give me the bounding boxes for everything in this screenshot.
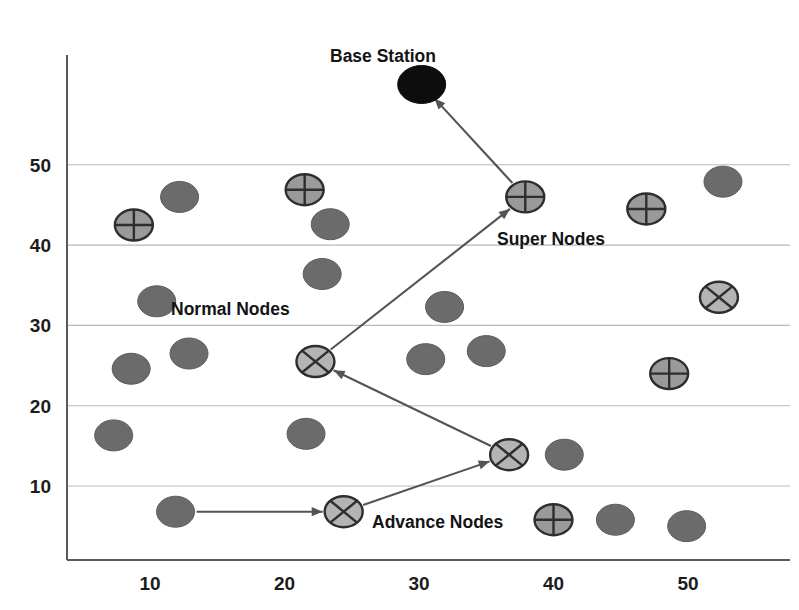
advance-nodes-marker <box>296 346 334 377</box>
normal-nodes-marker <box>112 353 150 384</box>
normal-nodes-body <box>287 418 325 449</box>
normal-nodes-body <box>161 181 199 212</box>
y-tick-label-50: 50 <box>30 155 51 176</box>
normal-nodes-body <box>407 344 445 375</box>
normal-nodes-marker <box>426 291 464 322</box>
normal-nodes-marker <box>545 439 583 470</box>
normal-nodes-body <box>303 259 341 290</box>
normal-nodes-body <box>668 511 706 542</box>
normal-nodes-marker <box>287 418 325 449</box>
normal-nodes-marker <box>596 504 634 535</box>
normal-nodes-body <box>545 439 583 470</box>
normal-nodes-body <box>95 420 133 451</box>
normal-nodes-marker <box>170 338 208 369</box>
normal-nodes-marker <box>467 336 505 367</box>
base-station-body <box>398 66 446 104</box>
y-tick-label-10: 10 <box>30 476 51 497</box>
normal-nodes-body <box>704 166 742 197</box>
scatter-figure: 10203040501020304050 Base StationSuper N… <box>0 0 799 610</box>
normal-nodes-marker <box>157 496 195 527</box>
advance-nodes-marker <box>700 282 738 313</box>
normal-nodes-body <box>596 504 634 535</box>
super-nodes-marker <box>650 358 688 389</box>
y-tick-label-20: 20 <box>30 396 51 417</box>
normal-nodes-marker <box>668 511 706 542</box>
x-tick-label-10: 10 <box>139 573 160 594</box>
super-nodes-marker <box>535 504 573 535</box>
scatter-plot-canvas: 10203040501020304050 Base StationSuper N… <box>0 0 799 610</box>
y-tick-label-40: 40 <box>30 235 51 256</box>
x-tick-label-30: 30 <box>408 573 429 594</box>
normal-nodes-body <box>157 496 195 527</box>
normal-nodes-marker <box>303 259 341 290</box>
normal-nodes-body <box>467 336 505 367</box>
normal-nodes-marker <box>311 209 349 240</box>
super-nodes-label: Super Nodes <box>497 229 605 249</box>
advance-nodes-label: Advance Nodes <box>372 512 504 532</box>
normal-nodes-marker <box>95 420 133 451</box>
normal-nodes-marker <box>161 181 199 212</box>
x-tick-label-40: 40 <box>543 573 564 594</box>
super-nodes-marker <box>286 174 324 205</box>
y-tick-label-30: 30 <box>30 315 51 336</box>
normal-nodes-body <box>170 338 208 369</box>
super-nodes-marker <box>627 193 665 224</box>
x-tick-label-20: 20 <box>274 573 295 594</box>
normal-nodes-body <box>311 209 349 240</box>
base-station-marker <box>398 66 446 104</box>
advance-nodes-marker <box>490 439 528 470</box>
super-nodes-marker <box>115 210 153 241</box>
x-tick-label-50: 50 <box>677 573 698 594</box>
base-station-label: Base Station <box>330 46 436 66</box>
advance-nodes-marker <box>325 496 363 527</box>
normal-nodes-marker <box>704 166 742 197</box>
super-nodes-marker <box>506 181 544 212</box>
normal-nodes-body <box>426 291 464 322</box>
normal-nodes-body <box>112 353 150 384</box>
normal-nodes-label: Normal Nodes <box>171 299 290 319</box>
normal-nodes-marker <box>407 344 445 375</box>
